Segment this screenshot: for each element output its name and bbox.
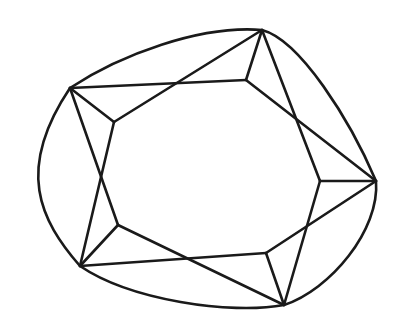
facet-line-B-c [262,30,320,181]
facet-line-C-b [246,80,376,181]
diagram-canvas [0,0,402,333]
facet-line-D-c [284,181,320,305]
gem-facet-diagram [0,0,402,333]
facet-line-E-a [80,122,114,266]
facet-lines [70,30,376,305]
facet-line-E-d [80,253,266,266]
facet-line-A-b [70,80,246,88]
facet-line-B-a [114,30,262,122]
